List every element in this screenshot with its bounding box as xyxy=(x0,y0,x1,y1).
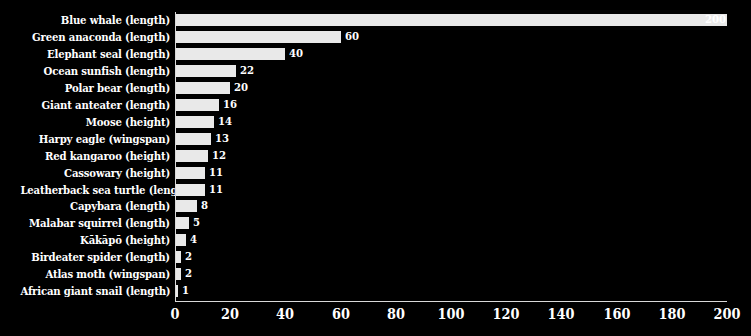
bar xyxy=(175,82,230,94)
bar-value-label: 2 xyxy=(185,250,192,263)
bar-row: 11 xyxy=(175,184,727,196)
bar-value-label: 4 xyxy=(190,233,197,246)
bar-row: 11 xyxy=(175,167,727,179)
bar-row: 2 xyxy=(175,268,727,280)
bar xyxy=(175,217,189,229)
bar xyxy=(175,48,285,60)
bar-value-label: 11 xyxy=(209,183,223,196)
category-label: Kākāpō (height) xyxy=(20,234,170,246)
bar-value-label: 1 xyxy=(182,284,189,297)
bar-row: 1 xyxy=(175,285,727,297)
x-tick-label: 140 xyxy=(548,305,575,323)
category-label: Birdeater spider (length) xyxy=(20,251,170,263)
category-label: Moose (height) xyxy=(20,116,170,128)
bar-row: 12 xyxy=(175,150,727,162)
x-tick-label: 120 xyxy=(493,305,520,323)
bar xyxy=(175,200,197,212)
bar-row: 200 xyxy=(175,14,727,26)
x-tick-label: 0 xyxy=(171,305,180,323)
bar xyxy=(175,116,214,128)
bar-value-label: 22 xyxy=(240,64,254,77)
bar-row: 16 xyxy=(175,99,727,111)
bar-row: 4 xyxy=(175,234,727,246)
x-tick-label: 60 xyxy=(332,305,350,323)
bar xyxy=(175,184,205,196)
bar-row: 14 xyxy=(175,116,727,128)
bar-row: 60 xyxy=(175,31,727,43)
category-label: Elephant seal (length) xyxy=(20,48,170,60)
bar xyxy=(175,14,727,26)
category-axis-labels: Blue whale (length)Green anaconda (lengt… xyxy=(0,12,170,302)
x-tick-label: 200 xyxy=(714,305,741,323)
bar-value-label: 11 xyxy=(209,166,223,179)
x-axis-tick-labels: 020406080100120140160180200 xyxy=(0,305,751,327)
bar-row: 5 xyxy=(175,217,727,229)
bar-row: 22 xyxy=(175,65,727,77)
bar-row: 40 xyxy=(175,48,727,60)
bar-row: 8 xyxy=(175,200,727,212)
bar-value-label: 5 xyxy=(193,216,200,229)
category-label: Cassowary (height) xyxy=(20,167,170,179)
bar-value-label: 2 xyxy=(185,267,192,280)
bar-value-label: 8 xyxy=(201,199,208,212)
bar-value-label: 20 xyxy=(234,81,248,94)
bar-value-label: 12 xyxy=(212,149,226,162)
plot-area: 20060402220161413121111854221 xyxy=(175,12,727,302)
bar-row: 20 xyxy=(175,82,727,94)
category-label: Atlas moth (wingspan) xyxy=(20,268,170,280)
x-tick-label: 40 xyxy=(276,305,294,323)
bar xyxy=(175,234,186,246)
bar-value-label: 13 xyxy=(215,132,229,145)
bar-value-label: 200 xyxy=(705,13,726,26)
x-tick-label: 20 xyxy=(221,305,239,323)
bar-value-label: 40 xyxy=(289,47,303,60)
bar-value-label: 60 xyxy=(345,30,359,43)
bar xyxy=(175,99,219,111)
bar-row: 2 xyxy=(175,251,727,263)
x-axis-line xyxy=(175,301,727,302)
y-axis-line xyxy=(175,12,176,302)
bar xyxy=(175,31,341,43)
bar xyxy=(175,65,236,77)
category-label: African giant snail (length) xyxy=(20,285,170,297)
category-label: Ocean sunfish (length) xyxy=(20,65,170,77)
x-tick-label: 180 xyxy=(658,305,685,323)
x-tick-label: 100 xyxy=(438,305,465,323)
category-label: Capybara (length) xyxy=(20,200,170,212)
category-label: Harpy eagle (wingspan) xyxy=(20,133,170,145)
category-label: Polar bear (length) xyxy=(20,82,170,94)
category-label: Leatherback sea turtle (length) xyxy=(20,184,170,196)
category-label: Blue whale (length) xyxy=(20,14,170,26)
bar-row: 13 xyxy=(175,133,727,145)
category-label: Red kangaroo (height) xyxy=(20,150,170,162)
x-tick-label: 160 xyxy=(603,305,630,323)
bar-value-label: 16 xyxy=(223,98,237,111)
bar xyxy=(175,150,208,162)
x-tick-label: 80 xyxy=(387,305,405,323)
bar xyxy=(175,133,211,145)
category-label: Malabar squirrel (length) xyxy=(20,217,170,229)
bar-chart: Blue whale (length)Green anaconda (lengt… xyxy=(0,0,751,336)
bar xyxy=(175,167,205,179)
bar-value-label: 14 xyxy=(218,115,232,128)
category-label: Giant anteater (length) xyxy=(20,99,170,111)
category-label: Green anaconda (length) xyxy=(20,31,170,43)
